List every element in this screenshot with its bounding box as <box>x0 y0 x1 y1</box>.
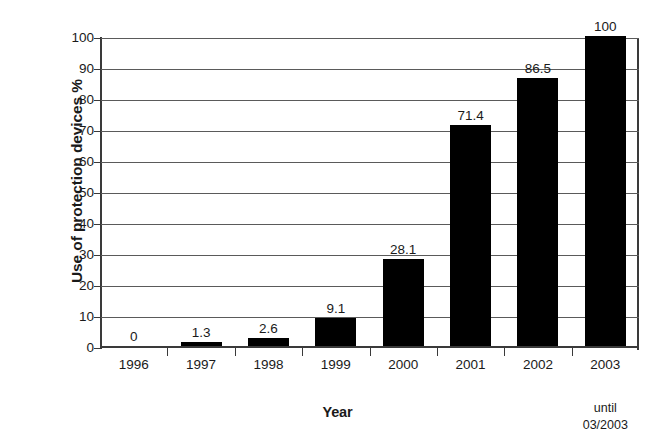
y-axis-tick-mark <box>94 100 101 101</box>
x-axis-tick-label: 1999 <box>301 357 371 373</box>
y-axis-tick-label: 0 <box>52 341 94 355</box>
x-axis-tick-mark <box>437 348 438 356</box>
y-axis-tick-mark <box>94 255 101 256</box>
bar <box>517 78 558 346</box>
bar-value-label: 86.5 <box>508 62 568 76</box>
y-axis-tick-label: 30 <box>52 248 94 262</box>
x-axis-tick-label: 2001 <box>436 357 506 373</box>
y-axis-tick-mark <box>94 224 101 225</box>
bar-value-label: 28.1 <box>373 243 433 257</box>
y-axis-tick-mark <box>94 38 101 39</box>
y-axis-tick-label: 60 <box>52 155 94 169</box>
gridline <box>100 38 639 39</box>
x-axis-tick-mark <box>504 348 505 356</box>
x-axis-tick-label: 1997 <box>166 357 236 373</box>
y-axis-tick-label: 100 <box>52 31 94 45</box>
x-axis-tick-label: 2003 <box>570 357 640 373</box>
y-axis-tick-label: 90 <box>52 62 94 76</box>
y-axis-tick-labels: 0102030405060708090100 <box>52 38 94 348</box>
bar-value-label: 100 <box>575 20 635 34</box>
bar <box>181 342 222 346</box>
bar-value-label: 1.3 <box>171 326 231 340</box>
y-axis-tick-mark <box>94 286 101 287</box>
y-axis-tick-mark <box>94 131 101 132</box>
y-axis-tick-mark <box>94 317 101 318</box>
x-axis-tick-labels: 19961997199819992000200120022003 <box>100 357 639 377</box>
plot-area: 01.32.69.128.171.486.5100 <box>100 38 639 348</box>
y-axis-tick-label: 20 <box>52 279 94 293</box>
x-axis-tick-mark <box>572 348 573 356</box>
bar <box>248 338 289 346</box>
y-axis-tick-label: 80 <box>52 93 94 107</box>
y-axis-tick-label: 70 <box>52 124 94 138</box>
bar-chart-figure: Use of protection devices % 010203040506… <box>0 0 671 446</box>
y-axis-tick-label: 10 <box>52 310 94 324</box>
x-axis-tick-label: 2000 <box>368 357 438 373</box>
x-axis-tick-label: 1996 <box>99 357 169 373</box>
x-axis-tick-label: 2002 <box>503 357 573 373</box>
y-axis-tick-mark <box>94 193 101 194</box>
right-axis-line <box>637 38 639 350</box>
bar-value-label: 71.4 <box>441 109 501 123</box>
until-note-line1: until <box>560 400 650 417</box>
x-axis-title-text: Year <box>322 404 352 420</box>
y-axis-tick-label: 50 <box>52 186 94 200</box>
bar <box>315 318 356 346</box>
bar-value-label: 9.1 <box>306 302 366 316</box>
y-axis-tick-mark <box>94 69 101 70</box>
bar <box>383 259 424 346</box>
x-axis-tick-mark <box>370 348 371 356</box>
bar-value-label: 0 <box>104 330 164 344</box>
until-note-line2: 03/2003 <box>560 417 650 434</box>
x-axis-tick-mark <box>235 348 236 356</box>
x-axis-tick-label: 1998 <box>233 357 303 373</box>
bar <box>585 36 626 346</box>
until-note-annotation: until 03/2003 <box>560 400 650 434</box>
bar-value-label: 2.6 <box>238 322 298 336</box>
y-axis-tick-label: 40 <box>52 217 94 231</box>
x-axis-tick-mark <box>167 348 168 356</box>
y-axis-tick-mark <box>94 348 101 349</box>
bar <box>450 125 491 346</box>
x-axis-tick-mark <box>302 348 303 356</box>
y-axis-tick-mark <box>94 162 101 163</box>
